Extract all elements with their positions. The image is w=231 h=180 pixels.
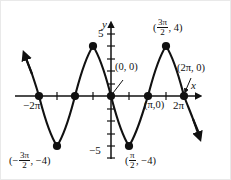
- peak-right-rest: , 4): [169, 22, 183, 33]
- trig-graph-figure: y x 5 −5 −2π 2π (3π2, 4) (0, 0) (2π, 0) …: [0, 0, 231, 180]
- trough-right-rest: , −4): [136, 155, 156, 166]
- trough-left-fraction: 3π2: [19, 151, 30, 170]
- point-minus-3pi-2: [53, 142, 61, 150]
- peak-right-fraction: 3π2: [157, 18, 168, 37]
- trough-left-rest: , −4): [30, 155, 50, 166]
- annotation-trough-left: (−3π2, −4): [9, 151, 50, 170]
- y-tick-label-5: 5: [98, 28, 104, 39]
- point-3pi-2: [162, 42, 170, 50]
- curve-arrow-right: [193, 119, 200, 139]
- peak-right-open: (: [153, 22, 157, 33]
- annotation-zero-2pi: (2π, 0): [177, 63, 205, 74]
- x-tick-label-2pi: 2π: [173, 100, 184, 111]
- trough-right-fraction: π2: [129, 151, 136, 170]
- annotation-peak-right: (3π2, 4): [153, 18, 183, 37]
- y-tick-label-minus5: −5: [89, 145, 101, 156]
- x-axis-label: x: [191, 80, 196, 91]
- trough-left-open: (−: [9, 155, 18, 166]
- point-minus-pi-2: [89, 42, 97, 50]
- point-pi-2: [125, 142, 133, 150]
- point-minus-pi: [71, 92, 79, 100]
- point-origin: [107, 92, 115, 100]
- annotation-origin: (0, 0): [115, 62, 138, 73]
- trough-right-open: (: [125, 155, 129, 166]
- annotation-zero-pi: (π,0): [144, 100, 164, 111]
- x-tick-label-minus-2pi: −2π: [23, 100, 40, 111]
- curve-arrow-left: [24, 53, 32, 74]
- annotation-trough-right: (π2, −4): [125, 151, 156, 170]
- leader-origin: [113, 80, 123, 93]
